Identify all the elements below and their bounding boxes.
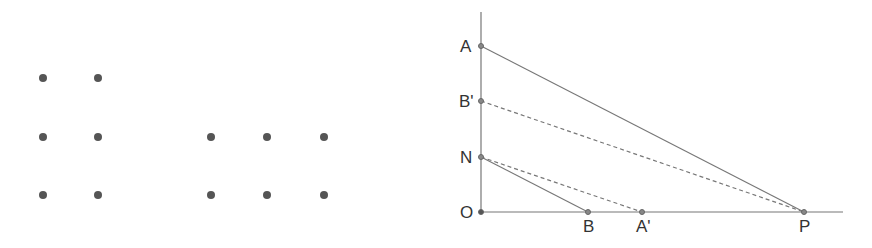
dot xyxy=(207,191,215,199)
dot xyxy=(94,74,102,82)
dot xyxy=(263,191,271,199)
point-Aprime xyxy=(640,210,645,215)
label-A: A xyxy=(460,37,472,56)
point-A xyxy=(479,44,484,49)
label-P: P xyxy=(799,217,810,236)
dot xyxy=(263,133,271,141)
point-N xyxy=(479,155,484,160)
label-O: O xyxy=(460,203,473,222)
segment-NB xyxy=(481,157,588,212)
figure-canvas: A B' N O B A' P xyxy=(0,0,872,248)
label-Aprime: A' xyxy=(636,217,651,236)
point-O xyxy=(479,210,484,215)
dot xyxy=(39,133,47,141)
dot-group-right xyxy=(207,133,328,199)
label-B: B xyxy=(583,217,594,236)
dot xyxy=(207,133,215,141)
point-Bprime xyxy=(479,99,484,104)
dot xyxy=(39,74,47,82)
dot xyxy=(94,191,102,199)
dot xyxy=(94,133,102,141)
dot xyxy=(320,191,328,199)
dot xyxy=(39,191,47,199)
segment-NAprime-dashed xyxy=(481,157,642,212)
point-P xyxy=(802,210,807,215)
geometry-diagram xyxy=(481,12,843,212)
label-N: N xyxy=(460,148,472,167)
dot-group-left xyxy=(39,74,102,199)
label-Bprime: B' xyxy=(459,92,474,111)
segment-BprimeP-dashed xyxy=(481,101,804,212)
dot xyxy=(320,133,328,141)
point-labels: A B' N O B A' P xyxy=(459,37,810,236)
segment-AP xyxy=(481,46,804,212)
point-B xyxy=(586,210,591,215)
